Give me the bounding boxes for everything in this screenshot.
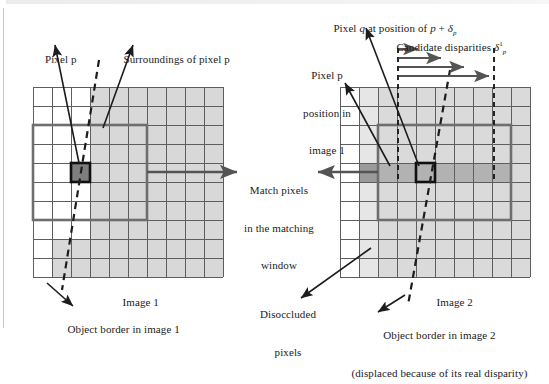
object-border-2-line-1: Object border in image 2 [330, 329, 549, 342]
label-candidate-disparities: Candidate disparities δ1p [385, 26, 506, 71]
label-pixel-p: Pixel p [24, 40, 86, 78]
image1-grid [33, 60, 223, 290]
pixel-p-pos-line-2: position in [296, 107, 358, 120]
disoccluded-line-2: pixels [248, 346, 328, 359]
label-object-border-2: Object border in image 2 (displaced beca… [330, 304, 549, 384]
match-line-2: in the matching [240, 222, 318, 235]
object-border-2-line-2: (displaced because of its real disparity… [330, 367, 549, 380]
label-object-border-1: Object border in image 1 [28, 310, 208, 348]
match-line-3: window [240, 259, 318, 272]
leader-object-border-1 [47, 283, 73, 306]
label-pixel-p-position: Pixel p position in image 1 [296, 44, 358, 182]
disoccluded-line-1: Disoccluded [248, 308, 328, 321]
match-line-1: Match pixels [240, 184, 318, 197]
pixel-p-pos-line-3: image 1 [296, 144, 358, 157]
image2-grid [340, 48, 530, 305]
label-disoccluded-pixels: Disoccluded pixels [248, 283, 328, 383]
candidate-disparities-text: Candidate disparities δ1p [396, 41, 506, 53]
label-surroundings: Surroundings of pixel p [96, 40, 246, 78]
pixel-p-pos-line-1: Pixel p [296, 69, 358, 82]
